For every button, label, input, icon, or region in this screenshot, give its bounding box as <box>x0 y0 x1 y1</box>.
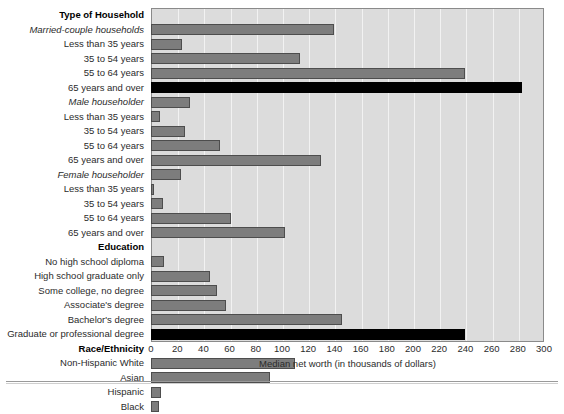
x-tick-label: 60 <box>224 343 235 354</box>
x-tick-label: 140 <box>326 343 342 354</box>
category-label: 35 to 54 years <box>0 197 148 212</box>
x-tick-label: 260 <box>484 343 500 354</box>
bar <box>151 155 321 166</box>
category-label: Black <box>0 400 148 414</box>
x-tick-label: 280 <box>510 343 526 354</box>
x-tick-label: 220 <box>431 343 447 354</box>
chart-row <box>151 168 544 183</box>
chart-row <box>151 385 544 400</box>
x-tick-label: 240 <box>457 343 473 354</box>
bar-highlighted <box>151 82 522 93</box>
bar <box>151 126 185 137</box>
bar <box>151 401 159 412</box>
bar <box>151 256 164 267</box>
bar <box>151 53 300 64</box>
bar <box>151 24 334 35</box>
x-tick-label: 300 <box>536 343 552 354</box>
category-label: Less than 35 years <box>0 110 148 125</box>
bars-container <box>151 8 544 342</box>
x-tick-label: 120 <box>300 343 316 354</box>
bar <box>151 111 160 122</box>
section-header-label: Type of Household <box>0 8 148 23</box>
category-label: Female householder <box>0 168 148 183</box>
bar <box>151 387 161 398</box>
category-axis-labels: Type of HouseholdMarried-couple househol… <box>0 8 148 342</box>
chart-row <box>151 52 544 67</box>
chart-row <box>151 139 544 154</box>
chart-row <box>151 327 544 342</box>
category-label: Associate's degree <box>0 298 148 313</box>
bar <box>151 68 465 79</box>
chart-row <box>151 269 544 284</box>
category-label: 55 to 64 years <box>0 211 148 226</box>
category-label: 55 to 64 years <box>0 139 148 154</box>
chart-row <box>151 226 544 241</box>
category-label: Less than 35 years <box>0 37 148 52</box>
x-tick-label: 160 <box>353 343 369 354</box>
bar <box>151 285 217 296</box>
chart-row <box>151 240 544 255</box>
category-label: Non-Hispanic White <box>0 356 148 371</box>
category-label: 65 years and over <box>0 81 148 96</box>
chart-row <box>151 66 544 81</box>
category-label: 65 years and over <box>0 226 148 241</box>
x-tick-label: 200 <box>405 343 421 354</box>
bar <box>151 169 181 180</box>
chart-row <box>151 255 544 270</box>
x-tick-label: 0 <box>148 343 153 354</box>
chart-row <box>151 400 544 414</box>
category-label: Graduate or professional degree <box>0 327 148 342</box>
bar <box>151 97 190 108</box>
x-tick-label: 100 <box>274 343 290 354</box>
bar <box>151 184 154 195</box>
category-label: Married-couple households <box>0 23 148 38</box>
chart-row <box>151 197 544 212</box>
x-tick-label: 20 <box>172 343 183 354</box>
bar-highlighted <box>151 329 465 340</box>
category-label: No high school diploma <box>0 255 148 270</box>
chart-row <box>151 23 544 38</box>
x-tick-label: 40 <box>198 343 209 354</box>
chart-row <box>151 153 544 168</box>
x-axis-tick-labels: 0204060801001201401601802002202402602803… <box>151 343 544 357</box>
section-header-label: Education <box>0 240 148 255</box>
bar <box>151 227 285 238</box>
chart-row <box>151 124 544 139</box>
chart-row <box>151 182 544 197</box>
chart-row <box>151 211 544 226</box>
x-tick-label: 80 <box>251 343 262 354</box>
section-header-label: Race/Ethnicity <box>0 342 148 357</box>
chart-row <box>151 8 544 23</box>
bar <box>151 300 226 311</box>
chart-row <box>151 313 544 328</box>
category-label: Less than 35 years <box>0 182 148 197</box>
bar <box>151 198 163 209</box>
chart-row <box>151 37 544 52</box>
chart-row <box>151 110 544 125</box>
category-label: Some college, no degree <box>0 284 148 299</box>
footer-rule <box>6 381 558 382</box>
category-label: Male householder <box>0 95 148 110</box>
category-label: Hispanic <box>0 385 148 400</box>
category-label: 55 to 64 years <box>0 66 148 81</box>
category-label: 35 to 54 years <box>0 52 148 67</box>
footer-rule-shadow <box>6 383 558 384</box>
bar <box>151 39 182 50</box>
bar <box>151 314 342 325</box>
x-tick-label: 180 <box>379 343 395 354</box>
chart-row <box>151 95 544 110</box>
category-label: 35 to 54 years <box>0 124 148 139</box>
category-label: High school graduate only <box>0 269 148 284</box>
x-axis-title: Median net worth (in thousands of dollar… <box>151 358 544 369</box>
bar <box>151 271 210 282</box>
category-label: Bachelor's degree <box>0 313 148 328</box>
chart-row <box>151 81 544 96</box>
category-label: 65 years and over <box>0 153 148 168</box>
chart-row <box>151 284 544 299</box>
chart-row <box>151 298 544 313</box>
bar <box>151 213 231 224</box>
bar <box>151 140 220 151</box>
